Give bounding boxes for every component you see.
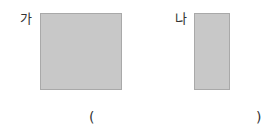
shape-label-ga: 가 (20, 12, 32, 25)
answer-blank[interactable] (100, 110, 250, 124)
rectangle-na (194, 13, 230, 90)
rectangle-ga (40, 13, 122, 90)
answer-close-paren: ) (256, 110, 261, 124)
shape-label-na: 나 (175, 12, 187, 25)
answer-open-paren: ( (89, 110, 94, 124)
